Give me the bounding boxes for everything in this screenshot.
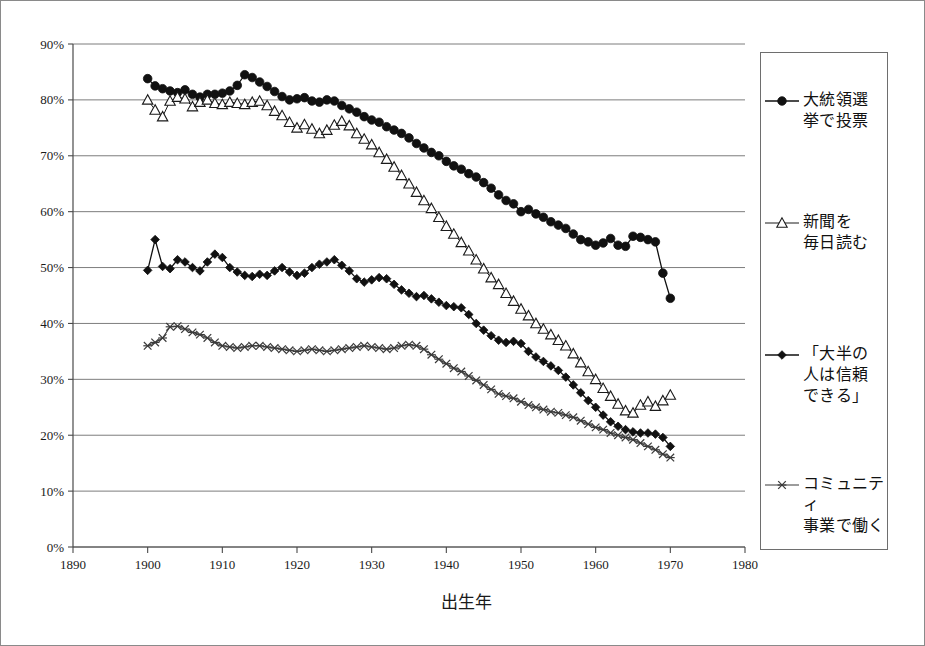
data-point-star	[464, 372, 473, 380]
x-tick-label: 1980	[732, 557, 758, 572]
data-point-star	[270, 344, 279, 352]
legend-label-1: 新聞を 毎日読む	[803, 211, 868, 253]
data-point-star	[352, 343, 361, 351]
data-point-star	[196, 331, 205, 339]
data-point-filled-circle	[487, 184, 496, 193]
legend-label-0: 大統領選 挙で投票	[803, 89, 868, 131]
data-point-open-triangle	[150, 105, 160, 114]
data-point-star	[636, 439, 645, 447]
data-point-star	[502, 392, 511, 400]
data-point-filled-circle	[270, 87, 279, 96]
data-point-filled-circle	[263, 82, 272, 91]
data-point-filled-circle	[778, 97, 787, 106]
data-point-star	[509, 395, 518, 403]
legend-marker-open-triangle-icon	[763, 211, 803, 232]
data-point-star	[546, 408, 555, 416]
x-tick-label: 1890	[60, 557, 86, 572]
data-point-star	[166, 323, 175, 331]
legend-label-2: 「大半の 人は信頼 できる」	[803, 343, 868, 406]
y-tick-label: 80%	[40, 92, 64, 107]
x-tick-label: 1960	[583, 557, 609, 572]
data-point-star	[308, 345, 317, 353]
x-tick-label: 1930	[359, 557, 385, 572]
data-point-star	[181, 325, 190, 333]
data-point-filled-circle	[621, 242, 630, 251]
data-point-open-triangle	[337, 116, 347, 125]
data-point-star	[315, 346, 324, 354]
data-point-filled-diamond	[502, 338, 511, 347]
data-point-filled-diamond	[255, 270, 264, 279]
data-point-filled-circle	[569, 230, 578, 239]
data-point-star	[255, 342, 264, 350]
data-point-star	[487, 386, 496, 394]
data-point-star	[554, 409, 563, 417]
data-point-star	[367, 343, 376, 351]
legend-label-3: コミュニティ 事業で働く	[803, 473, 887, 536]
data-point-star	[158, 334, 167, 342]
data-point-star	[569, 414, 578, 422]
legend-entry-3[interactable]: コミュニティ 事業で働く	[763, 473, 887, 536]
data-point-filled-circle	[494, 191, 503, 200]
data-point-filled-circle	[606, 234, 615, 243]
data-point-filled-circle	[143, 74, 152, 83]
data-point-star	[576, 417, 585, 425]
data-point-star	[658, 450, 667, 458]
data-point-star	[278, 345, 287, 353]
data-point-star	[188, 329, 197, 337]
legend-entry-0[interactable]: 大統領選 挙で投票	[763, 89, 887, 131]
data-point-star	[479, 381, 488, 389]
data-point-star	[322, 348, 331, 356]
data-point-star	[644, 443, 653, 451]
x-tick-label: 1940	[433, 557, 459, 572]
data-point-star	[442, 360, 451, 368]
data-point-filled-circle	[233, 81, 242, 90]
data-point-star	[263, 343, 272, 351]
data-point-star	[412, 342, 421, 350]
data-point-filled-diamond	[263, 271, 272, 280]
data-point-star	[382, 345, 391, 353]
data-point-filled-diamond	[375, 273, 384, 282]
data-point-star	[330, 346, 339, 354]
data-series	[142, 70, 675, 461]
data-point-filled-diamond	[644, 429, 653, 438]
data-point-filled-circle	[651, 238, 660, 247]
data-point-filled-diamond	[539, 357, 548, 366]
data-point-star	[591, 424, 600, 432]
data-point-open-triangle	[665, 390, 675, 399]
y-tick-label: 60%	[40, 204, 64, 219]
x-tick-label: 1970	[657, 557, 683, 572]
data-point-star	[293, 348, 302, 356]
data-point-star	[151, 339, 160, 347]
x-tick-label: 1920	[284, 557, 310, 572]
y-tick-label: 40%	[40, 316, 64, 331]
legend-marker-filled-diamond-icon	[763, 343, 803, 364]
data-point-star	[472, 377, 481, 385]
data-point-filled-diamond	[494, 336, 503, 345]
x-tick-label: 1910	[209, 557, 235, 572]
data-point-star	[420, 345, 429, 353]
data-point-open-triangle	[142, 95, 152, 104]
data-point-star	[494, 390, 503, 398]
data-point-star	[539, 406, 548, 414]
data-point-star	[285, 346, 294, 354]
data-point-filled-diamond	[151, 235, 160, 244]
data-point-filled-circle	[666, 294, 675, 303]
data-point-star	[143, 342, 152, 350]
data-point-filled-diamond	[547, 362, 556, 371]
series-line	[148, 240, 671, 447]
data-point-star	[405, 341, 414, 349]
data-point-star	[360, 342, 369, 350]
data-point-star	[614, 431, 623, 439]
legend-entry-2[interactable]: 「大半の 人は信頼 できる」	[763, 343, 887, 406]
legend-entry-1[interactable]: 新聞を 毎日読む	[763, 211, 887, 253]
data-point-star	[599, 426, 608, 434]
data-point-filled-diamond	[158, 262, 167, 271]
data-point-star	[248, 342, 257, 350]
y-tick-label: 10%	[40, 484, 64, 499]
y-axis-tick-labels: 0%10%20%30%40%50%60%70%80%90%	[40, 37, 64, 555]
data-point-star	[375, 344, 384, 352]
y-tick-label: 50%	[40, 260, 64, 275]
data-point-star	[629, 436, 638, 444]
y-tick-label: 20%	[40, 428, 64, 443]
data-point-open-triangle	[643, 396, 653, 405]
